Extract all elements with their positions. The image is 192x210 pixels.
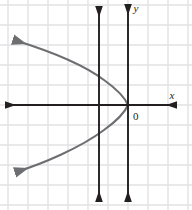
parabola-graph-figure: x y 0 [0,0,192,210]
origin-label: 0 [133,110,139,122]
coordinate-plane: x y 0 [0,0,192,210]
y-axis-label: y [133,2,139,14]
x-axis-label: x [169,89,175,101]
